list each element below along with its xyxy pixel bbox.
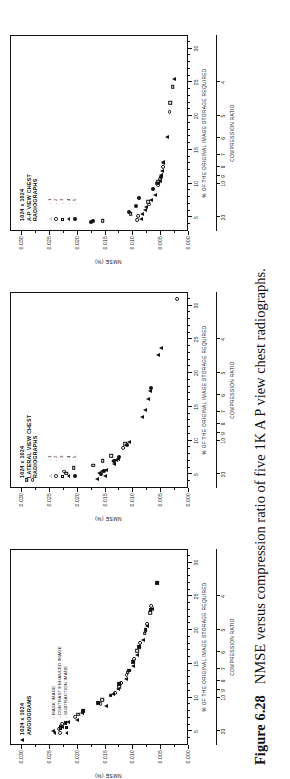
data-point — [25, 478, 29, 482]
x-axis-title: % OF THE ORIGINAL IMAGE STORAGE REQUIRED — [202, 68, 207, 197]
marker-sq-o-icon — [61, 218, 64, 221]
marker-cir-o-icon — [54, 217, 58, 221]
x-axis-minor-tick — [188, 392, 190, 393]
x-axis-minor-tick — [188, 332, 190, 333]
legend-label: - 5 — [72, 198, 78, 204]
x-axis-tick-label: 30 — [193, 303, 199, 309]
x-axis-minor-tick — [188, 162, 190, 163]
plot-title-line: A-P VIEW CHEST — [26, 174, 33, 221]
y-axis-minor-tick — [118, 231, 119, 233]
x-axis-minor-tick — [188, 95, 190, 96]
x-axis-minor-tick — [188, 325, 190, 326]
x-axis-tick-label: 25 — [193, 336, 199, 342]
x-axis-minor-tick — [188, 203, 190, 204]
data-point — [81, 709, 85, 713]
x-axis-tick — [188, 473, 192, 474]
legend-marker — [61, 204, 64, 221]
x-axis-tick — [188, 629, 192, 630]
compression-ratio-tick-label: 9 — [221, 175, 226, 178]
y-axis-tick-label: 0.030 — [18, 236, 24, 250]
x-axis-minor-tick — [188, 460, 190, 461]
x-axis-minor-tick — [188, 210, 190, 211]
x-axis-angiograms: % OF THE ORIGINAL IMAGE STORAGE REQUIRED… — [188, 549, 214, 745]
x-axis-minor-tick — [188, 223, 190, 224]
y-axis-tick — [105, 745, 106, 749]
x-axis-minor-tick — [188, 352, 190, 353]
data-point — [112, 459, 116, 463]
caption-text: NMSE versus compression ratio of five 1K… — [252, 268, 268, 684]
x-axis-minor-tick — [188, 453, 190, 454]
x-axis-tick-label: 20 — [193, 370, 199, 376]
compression-ratio-tick-label: 7 — [221, 153, 226, 156]
x-axis-minor-tick — [188, 724, 190, 725]
x-axis-minor-tick — [188, 189, 190, 190]
x-axis-tick-label: 10 — [193, 695, 199, 701]
compression-ratio-tick — [216, 216, 220, 217]
legend-marker — [73, 204, 77, 221]
data-point — [127, 210, 131, 214]
data-point — [72, 466, 76, 470]
data-point — [145, 622, 149, 626]
axis-line — [216, 35, 217, 231]
data-point — [148, 611, 152, 615]
compression-ratio-tick — [216, 81, 220, 82]
compression-ratio-tick — [216, 372, 220, 373]
legend-item: - 5 — [72, 198, 78, 221]
compression-ratio-tick-label: 7 — [221, 410, 226, 413]
y-axis-tick — [132, 488, 133, 492]
x-axis-minor-tick — [188, 88, 190, 89]
x-axis-minor-tick — [188, 419, 190, 420]
data-point — [165, 135, 169, 139]
plot-area-angiograms: 1024 x 1024 ANGIOGRAMS - MASK IMAGE- CON… — [10, 549, 188, 745]
y-axis-tick — [105, 231, 106, 235]
plot-title-line: RADIOGRAPHS — [32, 415, 39, 478]
panel-row: 1024 x 1024 ANGIOGRAMS - MASK IMAGE- CON… — [4, 11, 246, 771]
x-axis-minor-tick — [188, 399, 190, 400]
x-axis-minor-tick — [188, 41, 190, 42]
compression-ratio-tick — [216, 651, 220, 652]
compression-ratio-tick — [216, 730, 220, 731]
y-axis-ap-view-chest: NMSE (%) 0.0300.0250.0200.0150.0100.0050… — [10, 231, 188, 257]
data-point — [137, 196, 141, 200]
x-axis-minor-tick — [188, 683, 190, 684]
compression-ratio-tick-label: 20 — [221, 215, 226, 221]
x-axis-minor-tick — [188, 555, 190, 556]
data-point — [64, 472, 68, 476]
x-axis-minor-tick — [188, 602, 190, 603]
x-axis-tick-label: 30 — [193, 46, 199, 52]
compression-ratio-tick-label: 4 — [221, 595, 226, 598]
x-axis-tick-label: 5 — [193, 473, 199, 476]
compression-ratio-tick-label: 5 — [221, 629, 226, 632]
marker-sq-f-icon — [65, 726, 69, 730]
compression-ratio-tick-label: 20 — [221, 729, 226, 735]
x-axis-tick-label: 20 — [193, 627, 199, 633]
plot-title-angiograms: 1024 x 1024 ANGIOGRAMS — [19, 695, 32, 735]
marker-tri-f-icon — [65, 731, 68, 735]
x-axis-title: % OF THE ORIGINAL IMAGE STORAGE REQUIRED — [202, 582, 207, 711]
y-axis-tick-label: 0.000 — [185, 236, 191, 250]
marker-tri-f-icon — [67, 217, 70, 221]
y-axis-title: NMSE (%) — [95, 516, 122, 522]
x-axis-tick — [188, 562, 192, 563]
x-axis-tick-label: 15 — [193, 661, 199, 667]
panel-angiograms: 1024 x 1024 ANGIOGRAMS - MASK IMAGE- CON… — [4, 525, 246, 771]
marker-tri-o-icon — [49, 474, 52, 478]
y-axis-tick-label: 0.010 — [129, 236, 135, 250]
legend-marker — [54, 204, 58, 221]
data-point — [100, 698, 104, 702]
compression-ratio-tick-label: 10 — [221, 181, 226, 187]
x-axis-tick — [188, 338, 192, 339]
y-axis-minor-tick — [146, 745, 147, 747]
y-axis-minor-tick — [118, 488, 119, 490]
y-axis-minor-tick — [174, 745, 175, 747]
compression-ratio-tick-label: 5 — [221, 372, 226, 375]
data-point — [101, 219, 105, 223]
y-axis-tick-label: 0.025 — [46, 750, 52, 764]
x-axis-minor-tick — [188, 102, 190, 103]
data-point — [151, 187, 155, 191]
x-axis-tick-label: 30 — [193, 560, 199, 566]
y-axis-minor-tick — [91, 488, 92, 490]
plot-title-line: RADIOGRAPHS — [32, 174, 39, 221]
compression-ratio-tick — [216, 668, 220, 669]
y-axis-tick — [21, 488, 22, 492]
